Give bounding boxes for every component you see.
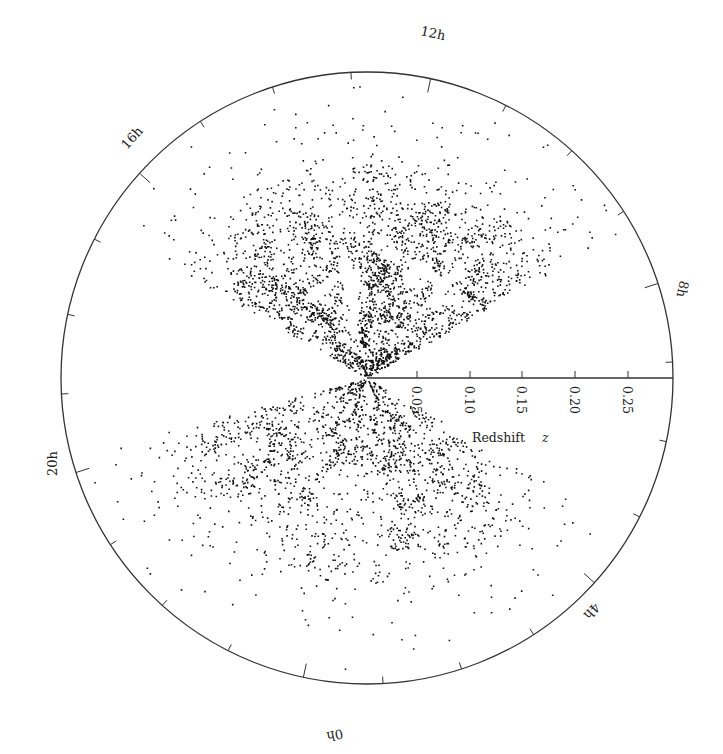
axis-title-text: Redshift	[472, 430, 525, 445]
cone-diagram-chart: 0.05 0.10 0.15 0.20 0.25 Redshift z 12h …	[0, 0, 723, 754]
hour-label-20h: 20h	[45, 450, 60, 476]
tick-label-0.15: 0.15	[514, 386, 529, 414]
tick-label-0.20: 0.20	[567, 386, 582, 414]
tick-label-0.25: 0.25	[620, 386, 635, 414]
axis-title-symbol: z	[541, 430, 549, 445]
tick-label-0.05: 0.05	[409, 386, 424, 414]
tick-label-0.10: 0.10	[462, 386, 477, 414]
chart-background	[0, 0, 723, 754]
